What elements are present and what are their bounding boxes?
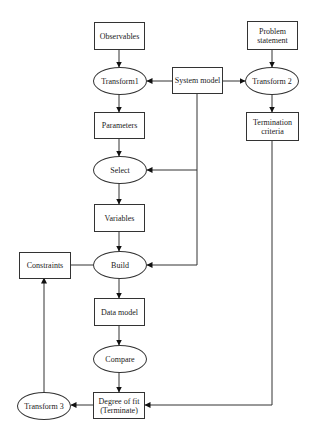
node-label: Transform1 <box>101 77 138 86</box>
flowchart-canvas: Observables Transform1 Parameters Select… <box>0 0 315 437</box>
node-label: Termination criteria <box>253 118 292 136</box>
node-label: Transform 3 <box>24 402 63 411</box>
node-transform1: Transform1 <box>93 67 147 95</box>
node-transform2: Transform 2 <box>245 67 299 95</box>
node-select: Select <box>93 156 147 184</box>
node-label: Constraints <box>27 261 63 270</box>
node-label: Degree of fit (Terminate) <box>99 397 140 415</box>
node-label: Problem statement <box>257 27 288 45</box>
node-parameters: Parameters <box>94 112 145 139</box>
node-degree-of-fit: Degree of fit (Terminate) <box>93 392 145 419</box>
node-label: Select <box>110 166 130 175</box>
node-constraints: Constraints <box>19 252 71 279</box>
node-transform3: Transform 3 <box>17 392 71 420</box>
node-label: Variables <box>105 214 135 223</box>
node-label: Data model <box>101 308 138 317</box>
edge-systemmodel-select <box>147 93 197 170</box>
node-label: Build <box>111 261 129 270</box>
connector-layer <box>0 0 315 437</box>
node-label: Parameters <box>102 121 138 130</box>
node-label: Compare <box>105 355 134 364</box>
node-compare: Compare <box>93 345 147 373</box>
node-label: System model <box>175 76 221 85</box>
edge-systemmodel-build <box>147 170 197 265</box>
edge-termination-degreeoffit <box>145 140 272 405</box>
node-problem-statement: Problem statement <box>247 21 298 50</box>
node-label: Observables <box>100 32 140 41</box>
node-observables: Observables <box>94 22 145 50</box>
node-system-model: System model <box>172 67 223 94</box>
node-termination-criteria: Termination criteria <box>246 112 299 141</box>
node-build: Build <box>93 251 147 279</box>
node-label: Transform 2 <box>252 77 291 86</box>
node-data-model: Data model <box>94 298 145 326</box>
node-variables: Variables <box>94 204 145 232</box>
